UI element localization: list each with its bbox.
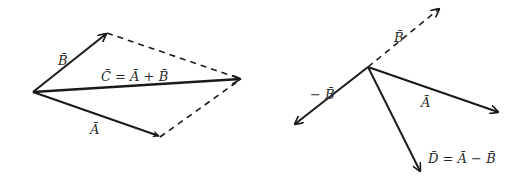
- label-c-equation: C̄ = Ā + B̄: [101, 69, 168, 84]
- label-a: Ā: [89, 122, 99, 137]
- label-a-right: Ā: [420, 95, 430, 110]
- addition-diagram: B̄ Ā C̄ = Ā + B̄: [33, 33, 241, 137]
- label-d-equation: D̄ = Ā − B̄: [427, 151, 496, 166]
- label-b: B̄: [57, 53, 68, 68]
- dashed-side-b-parallel: [160, 79, 241, 137]
- label-b-dashed: B̄: [393, 30, 404, 45]
- vector-diagram: B̄ Ā C̄ = Ā + B̄ B̄ − B̄ Ā D̄ = Ā − …: [0, 0, 526, 181]
- label-neg-b: − B̄: [310, 87, 335, 102]
- subtraction-diagram: B̄ − B̄ Ā D̄ = Ā − B̄: [295, 9, 498, 171]
- vector-b-arrow: [33, 34, 106, 92]
